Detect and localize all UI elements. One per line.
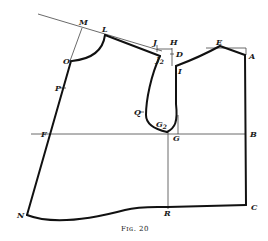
front-shoulder-line xyxy=(176,46,245,66)
label-i: I xyxy=(177,66,182,76)
label-h: H xyxy=(169,37,178,47)
side-back-line xyxy=(167,66,177,132)
neck-curve xyxy=(72,35,105,61)
hem-curve xyxy=(27,205,246,220)
label-a: A xyxy=(248,51,255,61)
label-m: M xyxy=(78,17,89,27)
pattern-outline xyxy=(27,35,246,220)
label-d: D xyxy=(175,49,183,59)
label-r: R xyxy=(163,208,171,218)
label-c: C xyxy=(251,202,258,212)
label-b: B xyxy=(249,129,257,139)
label-l: L xyxy=(101,24,108,34)
pattern-diagram: M L O P F N J J2 H D I E A Q G2 G B R C … xyxy=(0,0,268,241)
line-m-o xyxy=(70,28,82,61)
label-n: N xyxy=(16,210,25,220)
label-e: E xyxy=(215,37,223,47)
center-front-line xyxy=(245,55,246,205)
label-g2: G2 xyxy=(156,119,167,130)
label-p: P xyxy=(54,83,62,93)
label-g: G xyxy=(173,133,180,143)
label-q: Q xyxy=(134,107,141,117)
figure-caption: Fɪɢ. 20 xyxy=(121,225,149,233)
label-j2: J2 xyxy=(154,54,164,65)
shoulder-line xyxy=(105,35,160,56)
center-back-line xyxy=(27,61,71,215)
label-o: O xyxy=(63,56,70,66)
shoulder-guide-line xyxy=(38,14,162,51)
